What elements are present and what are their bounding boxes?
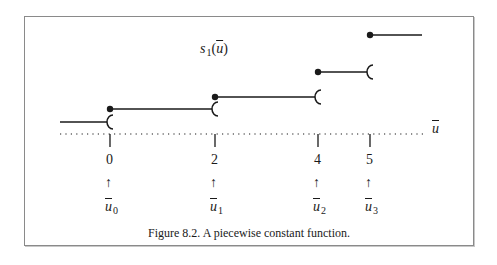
figure-caption: Figure 8.2. A piecewise constant functio…: [24, 226, 474, 241]
breakpoint-label-3: u3: [365, 200, 378, 214]
up-arrow-icon: ↑: [210, 176, 217, 190]
closed-endpoint-icon: [367, 32, 373, 38]
closed-endpoint-icon: [107, 106, 113, 112]
open-endpoint-icon: [367, 65, 373, 79]
open-endpoint-icon: [212, 102, 218, 116]
tick-label-4: 4: [314, 153, 321, 167]
open-endpoint-icon: [107, 115, 113, 129]
up-arrow-icon: ↑: [365, 176, 372, 190]
tick-label-0: 0: [106, 153, 113, 167]
axis-label: u: [432, 122, 439, 136]
closed-endpoint-icon: [212, 94, 218, 100]
tick-marks: [110, 134, 370, 147]
closed-endpoint-icon: [315, 69, 321, 75]
breakpoint-label-0: u0: [105, 200, 118, 214]
breakpoint-label-1: u1: [210, 200, 223, 214]
breakpoint-label-2: u2: [313, 200, 326, 214]
up-arrow-icon: ↑: [313, 176, 320, 190]
open-endpoint-icon: [315, 90, 321, 104]
tick-label-5: 5: [366, 153, 373, 167]
step-segments: [60, 35, 422, 129]
function-label: s1(u): [200, 42, 228, 56]
tick-label-2: 2: [211, 153, 218, 167]
up-arrow-icon: ↑: [105, 176, 112, 190]
